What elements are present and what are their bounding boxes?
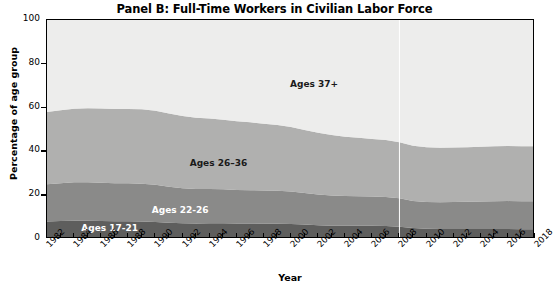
stacked-area-svg: [47, 20, 534, 238]
y-tick-label: 60: [0, 101, 40, 111]
y-tick-label: 20: [0, 188, 40, 198]
x-tick-mark: [263, 233, 264, 238]
x-tick-mark: [182, 233, 183, 238]
x-tick-mark: [480, 233, 481, 238]
x-tick-label: 2018: [532, 227, 555, 250]
x-tick-mark: [209, 233, 210, 238]
chart-title: Panel B: Full-Time Workers in Civilian L…: [0, 2, 549, 16]
x-tick-mark: [236, 233, 237, 238]
y-tick-label: 40: [0, 144, 40, 154]
y-tick-label: 80: [0, 57, 40, 67]
x-tick-mark: [453, 233, 454, 238]
y-tick-label: 0: [0, 232, 40, 242]
y-tick-label: 100: [0, 13, 40, 23]
x-tick-mark: [426, 233, 427, 238]
series-label: Ages 26–36: [190, 158, 248, 168]
series-label: Ages 37+: [290, 79, 338, 89]
plot-area: [46, 19, 534, 238]
x-tick-mark: [507, 233, 508, 238]
x-axis-label: Year: [46, 272, 534, 283]
series-label: Ages 22-26: [152, 205, 209, 215]
